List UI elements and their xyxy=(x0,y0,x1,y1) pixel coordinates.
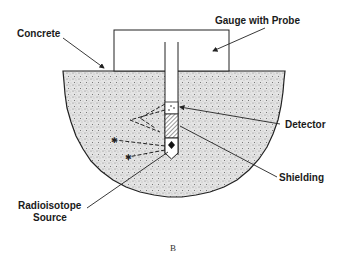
label-radioisotope: Radioisotope xyxy=(18,200,81,211)
svg-text:✱: ✱ xyxy=(111,136,118,145)
label-source: Source xyxy=(33,212,67,223)
svg-text:✱: ✱ xyxy=(125,153,132,162)
detector-element xyxy=(165,102,178,114)
shielding-element xyxy=(165,114,178,138)
figure-caption: B xyxy=(170,243,176,253)
label-shielding: Shielding xyxy=(279,172,324,183)
label-concrete: Concrete xyxy=(17,28,60,39)
concrete-leader xyxy=(63,38,104,68)
label-gauge-with-probe: Gauge with Probe xyxy=(215,15,300,26)
nuclear-gauge-diagram: ✱ ✱ Concrete Gauge with Probe Detector S… xyxy=(0,0,340,261)
probe-tube xyxy=(165,42,178,102)
label-detector: Detector xyxy=(285,119,326,130)
